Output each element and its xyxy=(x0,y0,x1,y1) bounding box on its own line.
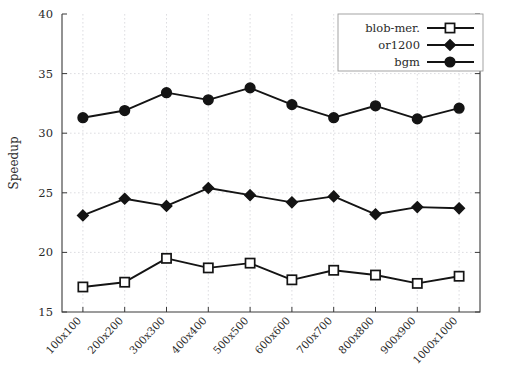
data-point-marker xyxy=(120,278,129,287)
legend-label-blob-mer-: blob-mer. xyxy=(365,21,420,35)
legend-sample-marker xyxy=(445,57,455,67)
data-point-marker xyxy=(120,106,130,116)
x-tick-label: 300x300 xyxy=(127,314,167,356)
data-point-marker xyxy=(455,272,464,281)
data-point-marker xyxy=(120,194,130,204)
data-point-marker xyxy=(162,254,171,263)
data-point-marker xyxy=(413,114,423,124)
data-point-marker xyxy=(454,203,464,213)
data-point-marker xyxy=(413,279,422,288)
y-tick-label: 25 xyxy=(38,186,53,200)
data-point-marker xyxy=(78,282,87,291)
y-tick-label: 20 xyxy=(38,245,53,259)
x-tick-label: 1000x1000 xyxy=(410,314,459,366)
data-point-marker xyxy=(245,83,255,93)
x-tick-label: 400x400 xyxy=(169,314,209,356)
y-tick-label: 40 xyxy=(38,7,53,21)
data-point-marker xyxy=(246,259,255,268)
data-point-marker xyxy=(204,95,214,105)
x-tick-label: 700x700 xyxy=(294,314,334,356)
x-tick-label: 500x500 xyxy=(210,314,250,356)
x-tick-label: 200x200 xyxy=(85,314,125,356)
data-point-marker xyxy=(204,263,213,272)
data-point-marker xyxy=(78,113,88,123)
series-line-bgm xyxy=(83,88,459,119)
data-point-marker xyxy=(245,190,255,200)
series-line-or1200 xyxy=(83,188,459,215)
data-point-marker xyxy=(161,201,171,211)
chart-canvas: 152025303540 100x100200x200300x300400x40… xyxy=(0,0,527,370)
data-point-marker xyxy=(329,113,339,123)
data-point-marker xyxy=(162,88,172,98)
data-point-marker xyxy=(203,183,213,193)
legend-sample-marker xyxy=(445,23,454,32)
data-point-marker xyxy=(329,266,338,275)
x-tick-label: 800x800 xyxy=(336,314,376,356)
data-point-marker xyxy=(287,197,297,207)
y-tick-label: 35 xyxy=(38,67,53,81)
data-point-marker xyxy=(287,100,297,110)
legend-label-or1200: or1200 xyxy=(378,38,420,52)
y-tick-label: 30 xyxy=(38,126,53,140)
data-point-marker xyxy=(78,210,88,220)
x-tick-label: 100x100 xyxy=(43,314,83,356)
x-tick-label: 900x900 xyxy=(378,314,418,356)
data-point-marker xyxy=(371,101,381,111)
data-point-marker xyxy=(371,270,380,279)
speedup-line-chart: 152025303540 100x100200x200300x300400x40… xyxy=(0,0,527,370)
data-series xyxy=(78,83,465,291)
legend-label-bgm: bgm xyxy=(394,55,420,69)
y-tick-label: 15 xyxy=(38,305,53,319)
y-axis-title: Speedup xyxy=(7,136,21,190)
chart-legend: blob-mer.or1200bgm xyxy=(338,14,483,71)
x-tick-label: 600x600 xyxy=(252,314,292,356)
data-point-marker xyxy=(412,202,422,212)
data-point-marker xyxy=(370,209,380,219)
data-point-marker xyxy=(454,103,464,113)
x-axis-ticks: 100x100200x200300x300400x400500x500600x6… xyxy=(43,307,459,366)
series-line-blob-mer- xyxy=(83,258,459,287)
data-point-marker xyxy=(287,275,296,284)
